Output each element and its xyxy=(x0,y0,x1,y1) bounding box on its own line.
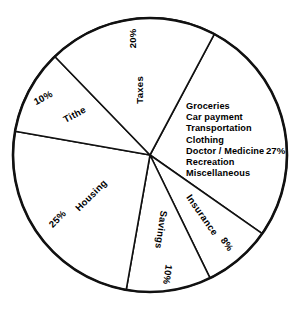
budget-pie-chart: Insurance8%Savings10%Housing25%Tithe10%T… xyxy=(0,0,296,311)
expense-list-item: Miscellaneous xyxy=(186,168,250,178)
expense-list-item: Doctor / Medicine xyxy=(186,146,264,156)
expense-list-item: Groceries xyxy=(186,101,230,111)
expense-list-item: Clothing xyxy=(186,135,224,145)
expense-list-item: Car payment xyxy=(186,112,243,122)
expense-list-item: Transportation xyxy=(186,123,252,133)
slice-label-taxes: Taxes xyxy=(134,76,145,104)
pie-chart-svg: Insurance8%Savings10%Housing25%Tithe10%T… xyxy=(0,0,296,311)
expense-list-item: Recreation xyxy=(186,157,235,167)
slice-percent-taxes: 20% xyxy=(127,28,138,48)
slice-percent-living-expenses: 27% xyxy=(266,145,286,156)
